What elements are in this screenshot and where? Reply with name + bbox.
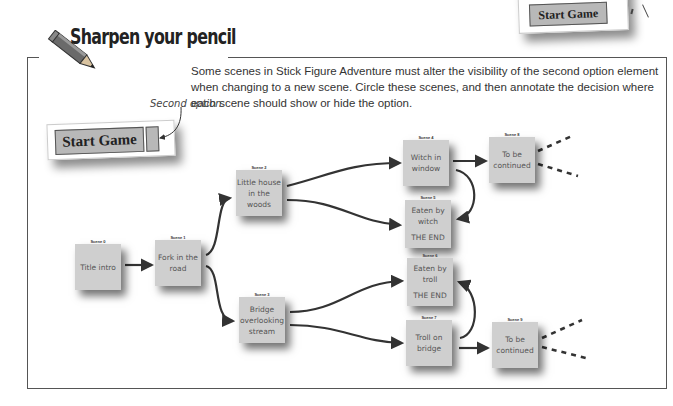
scene-text: Fork in the road: [157, 252, 199, 274]
scene-4-note: Scene 4 Witch in window: [403, 140, 449, 186]
scene-text: Troll on bridge: [410, 332, 448, 354]
scene-text: Title intro: [80, 262, 116, 273]
scene-text: To be continued: [492, 149, 532, 171]
scene-3-note: Scene 3 Bridge overlooking stream: [239, 297, 285, 343]
scene-flow-arrows: [0, 0, 673, 406]
scene-2-note: Scene 2 Little house in the woods: [236, 170, 282, 216]
scene-8-note: Scene 8 To be continued: [489, 137, 535, 183]
scene-6-note: Scene 6 Eaten by troll THE END: [407, 258, 453, 306]
scene-text: Little house in the woods: [237, 177, 281, 210]
scene-text: Eaten by witch: [409, 205, 447, 227]
the-end-label: THE END: [411, 232, 444, 243]
scene-text: Witch in window: [407, 152, 445, 174]
the-end-label: THE END: [413, 290, 446, 301]
scene-9-note: Scene 9 To be continued: [492, 322, 538, 368]
scene-0-note: Scene 0 Title intro: [75, 244, 121, 290]
scene-text: Bridge overlooking stream: [239, 304, 285, 337]
scene-5-note: Scene 5 Eaten by witch THE END: [405, 200, 451, 248]
scene-7-note: Scene 7 Troll on bridge: [406, 320, 452, 366]
scene-text: Eaten by troll: [411, 263, 449, 285]
scene-1-note: Scene 1 Fork in the road: [155, 240, 201, 286]
scene-text: To be continued: [495, 334, 535, 356]
